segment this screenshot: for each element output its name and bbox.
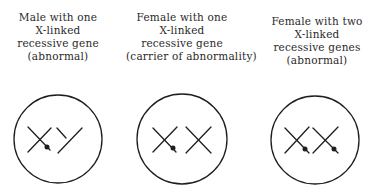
y-chromosome-icon — [57, 128, 82, 153]
cell-female-affected-xx — [271, 96, 359, 184]
cell-outline-icon — [14, 95, 102, 183]
cell-outline-icon — [137, 94, 227, 184]
x-chromosome-marked-icon — [153, 127, 177, 152]
x-chromosome-marked-icon — [313, 127, 338, 153]
cell-outline-icon — [271, 96, 359, 184]
cell-male-xy — [14, 95, 102, 183]
x-chromosome-marked-icon — [285, 127, 309, 153]
chromosome-diagram — [0, 0, 374, 195]
cell-female-carrier-xx — [137, 94, 227, 184]
x-chromosome-normal-icon — [186, 127, 211, 153]
x-chromosome-marked-icon — [28, 127, 51, 152]
